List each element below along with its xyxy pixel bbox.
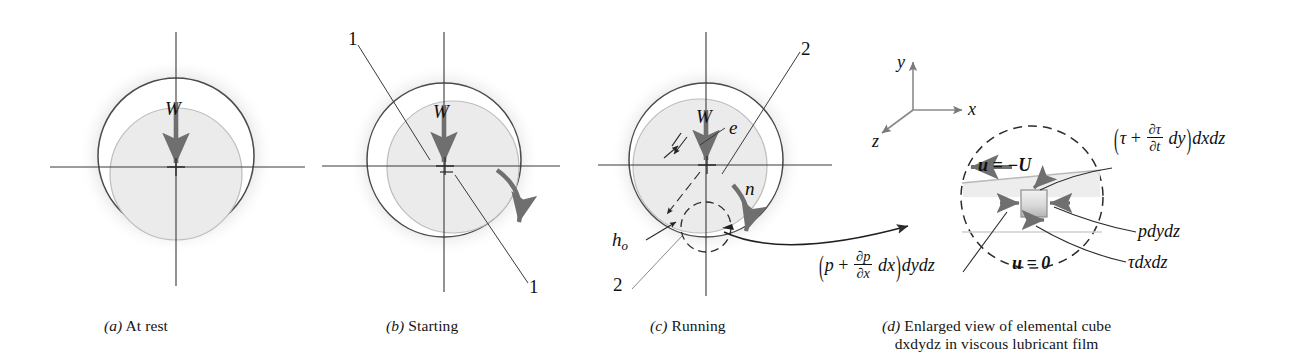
callout-2-top-c: 2 — [801, 38, 811, 60]
pressure-left-open-paren: ( — [818, 249, 825, 283]
shear-bottom-label: τdxdz — [1128, 252, 1167, 273]
caption-d: (d) Enlarged view of elemental cube dxdy… — [882, 317, 1111, 353]
load-label-c: W — [696, 106, 712, 128]
shear-top-open-paren: ( — [1113, 122, 1120, 156]
caption-b: (b) Starting — [386, 317, 458, 335]
panel-b-diagram — [322, 32, 560, 292]
callout-line-bottom-c — [632, 236, 682, 289]
journal-circle-b — [387, 101, 519, 233]
caption-c-tag: (c) — [650, 317, 668, 334]
film-thickness-subscript: o — [622, 238, 628, 253]
pressure-left-fraction: ∂p∂x — [854, 249, 872, 280]
pressure-left-tail: dydz — [902, 255, 935, 275]
shear-top-plus: + — [1131, 128, 1141, 148]
axis-y-label: y — [897, 52, 905, 73]
caption-d-text: Enlarged view of elemental cube — [904, 317, 1111, 334]
caption-d-tag: (d) — [882, 317, 900, 334]
shear-top-tau: τ — [1120, 128, 1126, 148]
shear-top-numerator: ∂τ — [1147, 122, 1163, 138]
pressure-right-label: pdydz — [1138, 221, 1180, 242]
film-thickness-symbol: h — [612, 229, 622, 250]
shear-top-close-paren: ) — [1185, 122, 1192, 156]
caption-a-text: At rest — [126, 317, 168, 334]
pressure-left-denominator: ∂x — [854, 265, 872, 281]
shear-top-dy: dy — [1168, 128, 1185, 148]
caption-a-tag: (a) — [104, 317, 122, 334]
load-label-a: W — [165, 98, 181, 120]
speed-label-c: n — [745, 178, 755, 200]
shear-top-tail: dxdz — [1192, 128, 1225, 148]
caption-c: (c) Running — [650, 317, 726, 335]
elemental-cube — [1021, 190, 1047, 217]
film-thickness-label-c: ho — [612, 229, 628, 254]
panel-a-diagram — [50, 32, 305, 286]
pressure-left-plus: + — [838, 255, 848, 275]
axis-z-line — [882, 110, 913, 133]
callout-1-bottom-b: 1 — [529, 276, 539, 298]
callout-1-top-b: 1 — [348, 28, 358, 50]
caption-d-line2: dxdydz in viscous lubricant film — [882, 335, 1111, 353]
pressure-left-leader — [963, 212, 1007, 272]
pressure-left-dx: dx — [878, 255, 895, 275]
axis-x-label: x — [968, 99, 976, 120]
load-label-b: W — [433, 101, 449, 123]
pressure-left-close-paren: ) — [895, 249, 902, 283]
caption-c-text: Running — [672, 317, 726, 334]
caption-a: (a) At rest — [104, 317, 168, 335]
journal-bearing-figure: W 1 W 1 W e n 2 2 ho y x z u = −U u = 0 … — [0, 0, 1299, 362]
axis-z-label: z — [872, 131, 879, 152]
shear-top-fraction: ∂τ∂t — [1147, 122, 1163, 153]
eccentricity-label-c: e — [729, 117, 737, 139]
pressure-left-expression: (p + ∂p∂x dx)dydz — [818, 249, 935, 280]
shear-top-expression: (τ + ∂τ∂t dy)dxdz — [1113, 122, 1225, 153]
callout-2-bottom-c: 2 — [613, 274, 623, 296]
velocity-bottom-label: u = 0 — [1012, 253, 1050, 274]
velocity-top-label: u = −U — [978, 155, 1031, 176]
pressure-left-p: p — [825, 255, 834, 275]
pressure-left-numerator: ∂p — [854, 249, 872, 265]
figure-canvas — [0, 0, 1299, 362]
caption-b-tag: (b) — [386, 317, 404, 334]
shear-top-denominator: ∂t — [1147, 138, 1163, 154]
caption-b-text: Starting — [408, 317, 458, 334]
